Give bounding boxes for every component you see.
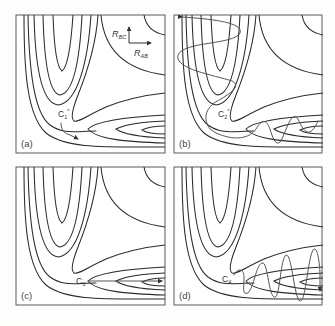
- panel-b-frame: [174, 15, 322, 153]
- panel-a: RBC RAB C1* (a): [16, 15, 165, 153]
- panel-c: C3 (c): [16, 167, 165, 305]
- panel-c-label: (c): [21, 290, 32, 301]
- panel-d-label: (d): [179, 290, 191, 301]
- panel-b: C2* (b): [174, 15, 323, 153]
- panel-b-label: (b): [179, 138, 191, 149]
- panel-c-frame: [16, 167, 165, 305]
- panel-d-frame: [174, 167, 322, 305]
- potential-energy-surface-figure: RBC RAB C1* (a) C2* (b) C3 (c) C4 (d): [0, 0, 335, 326]
- panel-a-label: (a): [21, 138, 33, 149]
- panel-a-frame: [16, 15, 165, 153]
- panel-d: C4 (d): [174, 167, 323, 305]
